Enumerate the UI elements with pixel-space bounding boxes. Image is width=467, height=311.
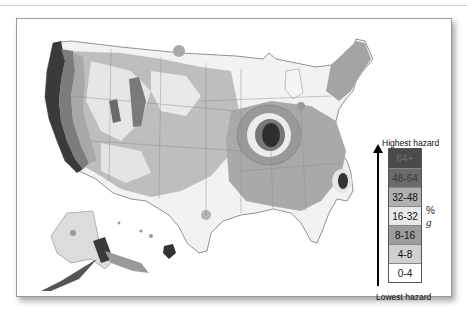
legend-bin: 32-48 [389, 187, 421, 206]
hazard-map [17, 19, 451, 296]
legend-bin: 8-16 [389, 225, 421, 244]
legend-bin: 0-4 [389, 263, 421, 282]
legend-bin: 16-32 [389, 206, 421, 225]
legend-bins: 64+ 48-64 32-48 16-32 8-16 4-8 0-4 [388, 148, 422, 283]
hawaii-island [163, 244, 176, 259]
legend-bin: 4-8 [389, 244, 421, 263]
legend-top-label: Highest hazard [382, 138, 439, 148]
map-figure: Highest hazard 64+ 48-64 32-48 16-32 8-1… [16, 18, 452, 297]
legend-bin: 48-64 [389, 168, 421, 187]
legend-bottom-label: Lowest hazard [376, 292, 431, 302]
unit-g: g [426, 216, 432, 228]
hazard-scale-arrow [377, 150, 379, 286]
top-rule [0, 5, 467, 6]
arrow-up-icon [373, 144, 383, 153]
unit-percent: % [426, 205, 435, 216]
legend-bin: 64+ [389, 149, 421, 168]
legend-unit: % g [426, 205, 442, 228]
